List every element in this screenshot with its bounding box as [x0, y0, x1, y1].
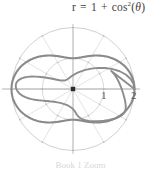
radial-tick-label-2: 2: [131, 90, 137, 101]
polar-plot-figure: r = 1 + cos2(θ) 1 2 Book 1 Zoom: [0, 0, 161, 171]
equation-equals: =: [79, 1, 88, 13]
equation-lhs: r: [72, 1, 76, 13]
equation-term-one: 1: [91, 1, 97, 13]
equation-label: r = 1 + cos2(θ): [72, 1, 145, 13]
equation-plus: +: [100, 1, 109, 13]
equation-close-paren: ): [141, 1, 145, 13]
radial-tick-label-1: 1: [101, 90, 107, 101]
equation-function: cos: [112, 1, 128, 13]
figure-caption-partial: Book 1 Zoom: [0, 160, 161, 171]
origin-marker: [71, 87, 75, 91]
polar-plot-canvas: [0, 0, 161, 171]
